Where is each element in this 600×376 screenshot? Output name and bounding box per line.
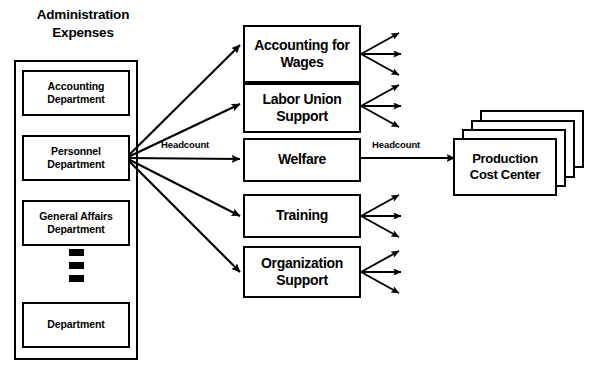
diagram-canvas: Administration Expenses Accounting Depar… — [0, 0, 600, 376]
cost-center-layer-front[interactable]: Production Cost Center — [453, 138, 557, 196]
department-label-line1: Department — [47, 318, 104, 331]
cost-center-label-line2: Cost Center — [470, 167, 540, 183]
department-label-line2: Department — [47, 158, 104, 171]
department-box-accounting[interactable]: Accounting Department — [22, 70, 130, 116]
department-label-line1: Accounting — [47, 80, 104, 93]
service-box-welfare[interactable]: Welfare — [243, 138, 361, 182]
service-label-line1: Accounting for — [254, 37, 349, 54]
department-box-general-affairs[interactable]: General Affairs Department — [22, 200, 130, 246]
service-label-line2: Support — [262, 108, 341, 125]
page-title-line2: Expenses — [8, 24, 158, 42]
edge-label-headcount-left: Headcount — [161, 139, 209, 150]
department-label-line1: Personnel — [47, 145, 104, 158]
department-label-line2: Department — [39, 223, 112, 236]
service-box-training[interactable]: Training — [243, 194, 361, 238]
service-label-line1: Labor Union — [262, 91, 341, 108]
ellipsis-dash-3 — [69, 275, 84, 282]
department-box-generic[interactable]: Department — [22, 302, 130, 348]
cost-center-label-line1: Production — [470, 151, 540, 167]
department-label-line1: General Affairs — [39, 210, 112, 223]
page-title: Administration Expenses — [8, 6, 158, 42]
service-label-line1: Welfare — [278, 151, 326, 168]
service-box-labor-union-support[interactable]: Labor Union Support — [243, 83, 361, 133]
vertical-ellipsis-icon — [63, 249, 89, 282]
service-box-organization-support[interactable]: Organization Support — [243, 246, 361, 298]
page-title-line1: Administration — [8, 6, 158, 24]
department-label-line2: Department — [47, 93, 104, 106]
service-label-line1: Organization — [261, 255, 343, 272]
service-label-line2: Wages — [254, 54, 349, 71]
service-label-line1: Training — [276, 207, 328, 224]
department-box-personnel[interactable]: Personnel Department — [22, 135, 130, 181]
production-cost-center-stack[interactable]: Production Cost Center — [452, 110, 584, 196]
ellipsis-dash-2 — [69, 262, 84, 269]
ellipsis-dash-1 — [69, 249, 84, 256]
service-box-accounting-for-wages[interactable]: Accounting for Wages — [243, 25, 361, 83]
service-label-line2: Support — [261, 272, 343, 289]
edge-label-headcount-right: Headcount — [372, 139, 420, 150]
